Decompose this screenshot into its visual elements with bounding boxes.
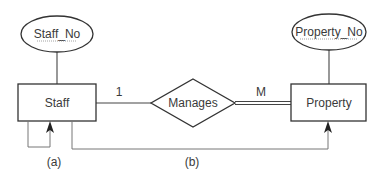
entity-property[interactable]: Property — [291, 84, 366, 121]
attribute-label: Property_No — [295, 25, 363, 39]
attribute-staff-no[interactable]: Staff_No — [21, 16, 93, 52]
staff-property-path — [72, 121, 328, 149]
path-b — [72, 121, 332, 149]
relationship-label: Manages — [168, 96, 217, 110]
annotation-b: (b) — [185, 155, 200, 169]
entity-label: Staff — [45, 96, 70, 110]
attribute-label: Staff_No — [34, 27, 81, 41]
cardinality-staff: 1 — [116, 85, 123, 99]
attribute-property-no[interactable]: Property_No — [292, 14, 366, 50]
self-loop-path — [28, 121, 50, 147]
cardinality-property: M — [256, 85, 266, 99]
annotation-a: (a) — [47, 155, 62, 169]
entity-staff[interactable]: Staff — [18, 84, 96, 121]
relationship-manages[interactable]: Manages — [151, 79, 235, 127]
entity-label: Property — [306, 96, 351, 110]
self-loop-a — [28, 121, 54, 147]
er-diagram: Staff_No Property_No 1 M Manages Staff P… — [0, 0, 383, 180]
